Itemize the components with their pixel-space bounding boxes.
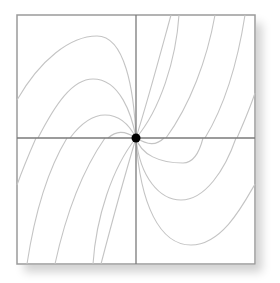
phase-portrait-canvas [0,0,280,283]
equilibrium-point-dot [132,134,141,143]
phase-portrait-figure [0,0,280,283]
